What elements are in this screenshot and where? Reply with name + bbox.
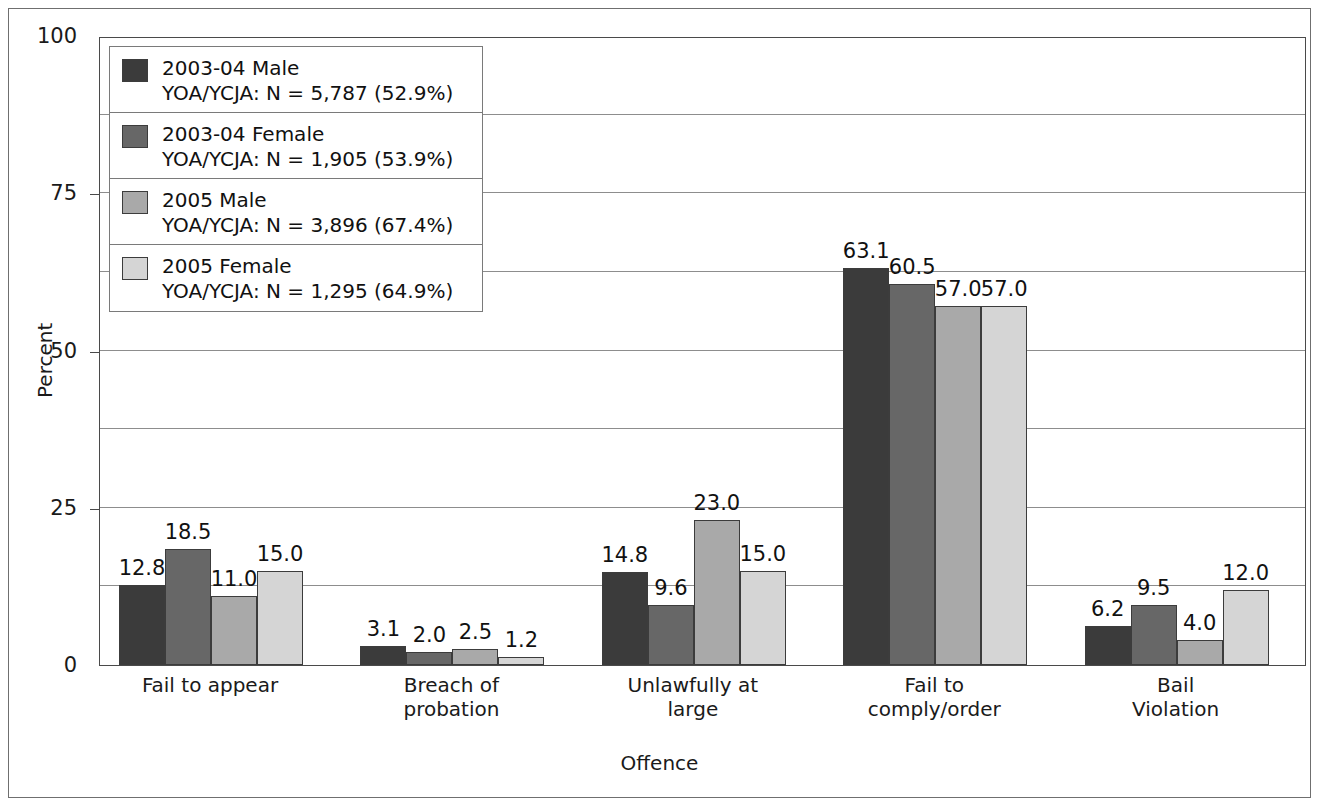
bar	[935, 306, 981, 665]
bar	[498, 657, 544, 665]
y-axis-tick-label: 50	[9, 341, 77, 362]
x-axis-category-line: Bail	[1056, 673, 1296, 697]
y-axis-tick-mark	[90, 194, 99, 195]
x-axis-category-label: Fail tocomply/order	[814, 673, 1054, 721]
x-axis-category-line: Violation	[1056, 697, 1296, 721]
legend-item-sublabel: YOA/YCJA: N = 5,787 (52.9%)	[162, 81, 453, 106]
bar-value-label: 14.8	[588, 545, 662, 566]
bar	[360, 646, 406, 665]
bar	[648, 605, 694, 665]
legend-item[interactable]: 2005 FemaleYOA/YCJA: N = 1,295 (64.9%)	[110, 245, 482, 311]
legend-swatch-icon	[122, 257, 148, 280]
plot-area: 12.818.511.015.03.12.02.51.214.89.623.01…	[99, 37, 1306, 666]
bar-value-label: 12.0	[1209, 563, 1283, 584]
legend-item-name: 2003-04 Male	[162, 56, 453, 81]
x-axis-category-label: Fail to appear	[90, 673, 330, 697]
legend-swatch-icon	[122, 125, 148, 148]
legend-item-text: 2005 FemaleYOA/YCJA: N = 1,295 (64.9%)	[162, 254, 453, 304]
legend-item-text: 2003-04 FemaleYOA/YCJA: N = 1,905 (53.9%…	[162, 122, 453, 172]
legend-swatch-icon	[122, 191, 148, 214]
x-axis-category-line: Fail to appear	[90, 673, 330, 697]
bar	[889, 284, 935, 665]
legend-item-name: 2005 Female	[162, 254, 453, 279]
legend-item-sublabel: YOA/YCJA: N = 1,905 (53.9%)	[162, 147, 453, 172]
bar-value-label: 9.5	[1117, 578, 1191, 599]
legend-item-text: 2003-04 MaleYOA/YCJA: N = 5,787 (52.9%)	[162, 56, 453, 106]
bar	[165, 549, 211, 665]
legend-item[interactable]: 2005 MaleYOA/YCJA: N = 3,896 (67.4%)	[110, 179, 482, 245]
legend-item-sublabel: YOA/YCJA: N = 1,295 (64.9%)	[162, 279, 453, 304]
y-axis-tick-label: 25	[9, 498, 77, 519]
bar	[740, 571, 786, 665]
x-axis-category-line: large	[573, 697, 813, 721]
grid-line	[100, 428, 1305, 429]
y-axis-tick-mark	[90, 352, 99, 353]
x-axis-category-line: Unlawfully at	[573, 673, 813, 697]
legend-item-name: 2005 Male	[162, 188, 453, 213]
bar	[119, 585, 165, 666]
y-axis-tick-mark	[90, 509, 99, 510]
bar	[257, 571, 303, 665]
bar-value-label: 18.5	[151, 522, 225, 543]
bar	[452, 649, 498, 665]
legend-item-name: 2003-04 Female	[162, 122, 453, 147]
grid-line	[100, 350, 1305, 351]
bar-value-label: 15.0	[243, 544, 317, 565]
bar	[694, 520, 740, 665]
y-axis-tick-label: 0	[9, 655, 77, 676]
bar-value-label: 23.0	[680, 493, 754, 514]
bar	[843, 268, 889, 665]
figure-frame: Percent 0255075100 12.818.511.015.03.12.…	[8, 8, 1311, 798]
legend-item-text: 2005 MaleYOA/YCJA: N = 3,896 (67.4%)	[162, 188, 453, 238]
legend-item-sublabel: YOA/YCJA: N = 3,896 (67.4%)	[162, 213, 453, 238]
bar-value-label: 1.2	[484, 630, 558, 651]
x-axis-category-label: BailViolation	[1056, 673, 1296, 721]
legend-item[interactable]: 2003-04 FemaleYOA/YCJA: N = 1,905 (53.9%…	[110, 113, 482, 179]
x-axis-title: Offence	[9, 751, 1310, 775]
x-axis-category-label: Unlawfully atlarge	[573, 673, 813, 721]
bar-value-label: 57.0	[967, 279, 1041, 300]
bar-value-label: 15.0	[726, 544, 800, 565]
bar	[981, 306, 1027, 665]
y-axis-tick-label: 100	[9, 26, 77, 47]
chart-legend: 2003-04 MaleYOA/YCJA: N = 5,787 (52.9%)2…	[109, 46, 483, 312]
bar	[1085, 626, 1131, 665]
bar	[211, 596, 257, 665]
bar	[1223, 590, 1269, 665]
bar-value-label: 60.5	[875, 257, 949, 278]
x-axis-category-label: Breach ofprobation	[331, 673, 571, 721]
bar	[406, 652, 452, 665]
x-axis-category-line: Breach of	[331, 673, 571, 697]
y-axis-tick-label: 75	[9, 183, 77, 204]
x-axis-category-line: probation	[331, 697, 571, 721]
bar	[1177, 640, 1223, 665]
x-axis-category-line: comply/order	[814, 697, 1054, 721]
legend-item[interactable]: 2003-04 MaleYOA/YCJA: N = 5,787 (52.9%)	[110, 47, 482, 113]
legend-swatch-icon	[122, 59, 148, 82]
x-axis-category-line: Fail to	[814, 673, 1054, 697]
